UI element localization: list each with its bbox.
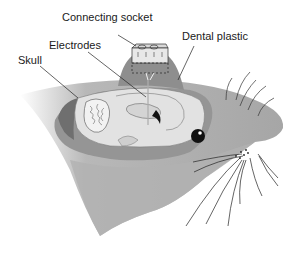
- rat-electrode-diagram: Connecting socket Dental plastic Electro…: [0, 0, 305, 268]
- diagram-canvas: [0, 0, 305, 268]
- leader-connecting-socket: [118, 35, 136, 46]
- cerebellum: [84, 99, 110, 132]
- socket-body: [132, 48, 168, 63]
- eye-highlight: [198, 131, 202, 135]
- eye: [191, 129, 205, 143]
- eye-ball: [191, 129, 205, 143]
- label-connecting-socket: Connecting socket: [62, 12, 153, 23]
- skull: [54, 87, 212, 160]
- leader-dental-plastic: [178, 46, 194, 80]
- label-skull: Skull: [18, 55, 42, 66]
- label-dental-plastic: Dental plastic: [182, 31, 248, 42]
- label-electrodes: Electrodes: [49, 40, 101, 51]
